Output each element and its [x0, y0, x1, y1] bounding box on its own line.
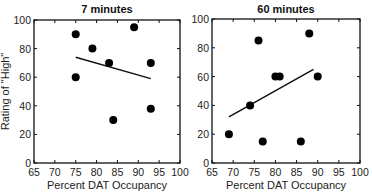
regression-line: [229, 69, 314, 117]
plot-frame: [34, 20, 180, 163]
y-tick-label: 60: [19, 71, 31, 83]
regression-line: [76, 57, 151, 78]
x-axis-title: Percent DAT Occupancy: [226, 179, 347, 191]
data-point: [246, 101, 254, 109]
x-tick-label: 90: [132, 166, 144, 178]
x-tick-label: 80: [91, 166, 103, 178]
data-point: [255, 37, 263, 45]
x-tick-label: 85: [291, 166, 303, 178]
x-tick-label: 85: [112, 166, 124, 178]
y-tick-label: 0: [203, 157, 209, 169]
x-tick-label: 75: [248, 166, 260, 178]
y-tick-label: 40: [19, 100, 31, 112]
y-tick-label: 20: [197, 128, 209, 140]
plot-title: 7 minutes: [81, 3, 132, 15]
data-point: [109, 116, 117, 124]
x-tick-label: 70: [49, 166, 61, 178]
y-tick-label: 100: [13, 14, 31, 26]
data-point: [105, 59, 113, 67]
data-point: [72, 30, 80, 38]
x-tick-label: 95: [153, 166, 165, 178]
x-tick-label: 95: [333, 166, 345, 178]
x-tick-label: 80: [270, 166, 282, 178]
x-tick-label: 100: [351, 166, 369, 178]
y-tick-label: 20: [19, 128, 31, 140]
y-tick-label: 80: [19, 43, 31, 55]
data-point: [147, 59, 155, 67]
data-point: [88, 45, 96, 53]
x-tick-label: 100: [171, 166, 189, 178]
x-tick-label: 75: [70, 166, 82, 178]
data-point: [147, 105, 155, 113]
data-point: [276, 73, 284, 81]
data-point: [305, 29, 313, 37]
plot-frame: [212, 19, 360, 163]
data-point: [297, 137, 305, 145]
plot-title: 60 minutes: [257, 3, 314, 15]
x-tick-label: 70: [227, 166, 239, 178]
y-tick-label: 60: [197, 71, 209, 83]
plot-60-minutes: 60 minutes65707580859095100020406080100P…: [191, 3, 368, 191]
x-tick-label: 90: [312, 166, 324, 178]
y-axis-title: Rating of "High": [0, 53, 11, 131]
chart-figure: 7 minutes65707580859095100020406080100Pe…: [0, 0, 372, 195]
x-axis-title: Percent DAT Occupancy: [47, 179, 168, 191]
data-point: [130, 23, 138, 31]
y-tick-label: 40: [197, 99, 209, 111]
data-point: [314, 73, 322, 81]
data-point: [225, 130, 233, 138]
plot-7-minutes: 7 minutes65707580859095100020406080100Pe…: [0, 3, 189, 191]
y-tick-label: 80: [197, 42, 209, 54]
data-point: [72, 73, 80, 81]
y-tick-label: 0: [25, 157, 31, 169]
data-point: [259, 137, 267, 145]
y-tick-label: 100: [191, 13, 209, 25]
